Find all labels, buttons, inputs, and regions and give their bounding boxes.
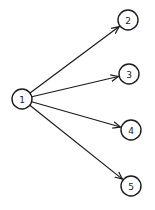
node-label: 1 [19,95,25,105]
node-label: 2 [125,16,131,26]
edge-1-to-5 [30,105,123,179]
node-5: 5 [121,176,141,196]
edge-1-to-3 [32,77,119,97]
node-2: 2 [118,10,138,30]
edges-group [30,27,123,180]
node-1: 1 [12,89,32,109]
node-label: 5 [128,182,134,192]
edge-1-to-4 [32,102,121,127]
node-label: 3 [126,70,132,80]
edge-1-to-2 [30,27,119,93]
node-4: 4 [121,120,141,140]
node-3: 3 [119,64,139,84]
node-label: 4 [128,126,134,136]
directed-graph: 12345 [0,0,155,210]
nodes-group: 12345 [12,10,141,196]
